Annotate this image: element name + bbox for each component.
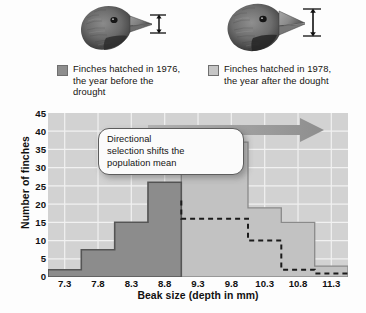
legend-label-1978: Finches hatched in 1978, the year after … xyxy=(224,63,331,86)
y-tick: 15 xyxy=(24,217,46,228)
finch-1976-photo xyxy=(72,2,168,54)
y-tick: 30 xyxy=(24,162,46,173)
y-tick: 20 xyxy=(24,199,46,210)
x-tick: 7.8 xyxy=(81,278,115,289)
x-axis-title: Beak size (depth in mm) xyxy=(48,290,348,301)
legend-label-1976: Finches hatched in 1976, the year before… xyxy=(73,63,187,98)
y-tick: 40 xyxy=(24,126,46,137)
x-tick: 8.8 xyxy=(148,278,182,289)
y-tick: 35 xyxy=(24,144,46,155)
x-tick: 8.3 xyxy=(114,278,148,289)
callout-box: Directional selection shifts the populat… xyxy=(98,128,244,175)
x-tick: 10.8 xyxy=(281,278,315,289)
x-tick: 10.3 xyxy=(248,278,282,289)
plot-area: Directional selection shifts the populat… xyxy=(48,113,348,277)
series-1976-area xyxy=(48,182,181,277)
callout-text: Directional selection shifts the populat… xyxy=(107,134,236,169)
legend-swatch-dark-icon xyxy=(57,65,68,76)
y-tick: 10 xyxy=(24,235,46,246)
y-tick: 25 xyxy=(24,181,46,192)
x-tick: 9.8 xyxy=(214,278,248,289)
y-tick: 5 xyxy=(24,253,46,264)
y-tick: 45 xyxy=(24,108,46,119)
finch-1978-photo xyxy=(219,0,323,56)
histogram-chart: Number of finches 45 40 35 30 25 20 15 1… xyxy=(0,100,366,313)
legend-item-1978: Finches hatched in 1978, the year after … xyxy=(208,63,348,86)
x-tick: 11.3 xyxy=(314,278,348,289)
legend-swatch-light-icon xyxy=(208,65,219,76)
figure-root: Finches hatched in 1976, the year before… xyxy=(0,0,366,313)
x-tick: 7.3 xyxy=(48,278,82,289)
x-tick: 9.3 xyxy=(181,278,215,289)
legend-item-1976: Finches hatched in 1976, the year before… xyxy=(57,63,187,98)
